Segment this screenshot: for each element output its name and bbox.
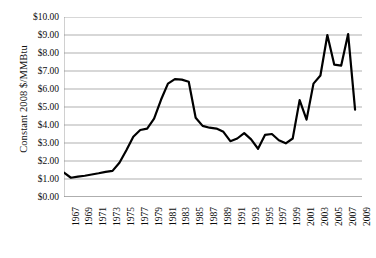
- x-tick-label: 1979: [153, 207, 165, 247]
- x-tick-label: 1997: [277, 207, 289, 247]
- x-tick-label: 2001: [305, 207, 317, 247]
- x-tick-label: 1989: [222, 207, 234, 247]
- y-tick-label: $9.00: [13, 30, 59, 40]
- y-tick-label: $6.00: [13, 84, 59, 94]
- plot-area: [64, 17, 362, 197]
- y-tick-label: $4.00: [13, 120, 59, 130]
- y-axis-tick-labels: $0.00$1.00$2.00$3.00$4.00$5.00$6.00$7.00…: [0, 0, 62, 258]
- x-tick-label: 1971: [97, 207, 109, 247]
- x-tick-label: 1973: [111, 207, 123, 247]
- data-line: [64, 34, 355, 178]
- x-tick-label: 1995: [264, 207, 276, 247]
- y-tick-label: $8.00: [13, 48, 59, 58]
- x-tick-label: 1967: [70, 207, 82, 247]
- x-tick-label: 1985: [194, 207, 206, 247]
- x-tick-label: 1981: [167, 207, 179, 247]
- y-tick-label: $5.00: [13, 102, 59, 112]
- y-tick-label: $1.00: [13, 174, 59, 184]
- chart-container: Constant 2008 $/MMBtu $0.00$1.00$2.00$3.…: [0, 0, 376, 258]
- x-tick-label: 2009: [361, 207, 373, 247]
- x-tick-label: 2005: [333, 207, 345, 247]
- y-tick-label: $3.00: [13, 138, 59, 148]
- x-tick-label: 1991: [236, 207, 248, 247]
- x-tick-label: 1993: [250, 207, 262, 247]
- y-tick-label: $2.00: [13, 156, 59, 166]
- x-tick-label: 1983: [180, 207, 192, 247]
- y-tick-label: $0.00: [13, 192, 59, 202]
- x-tick-label: 2003: [319, 207, 331, 247]
- y-tick-label: $7.00: [13, 66, 59, 76]
- x-tick-label: 1987: [208, 207, 220, 247]
- y-tick-label: $10.00: [13, 12, 59, 22]
- x-tick-label: 2007: [347, 207, 359, 247]
- x-tick-label: 1969: [83, 207, 95, 247]
- x-tick-label: 1975: [125, 207, 137, 247]
- data-series-layer: [64, 17, 362, 197]
- x-axis-tick-labels: 1967196919711973197519771979198119831985…: [64, 197, 362, 258]
- x-tick-label: 1977: [139, 207, 151, 247]
- x-tick-label: 1999: [291, 207, 303, 247]
